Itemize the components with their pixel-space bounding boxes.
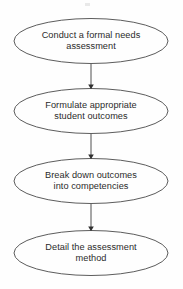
scan-artifact-speck — [85, 3, 90, 6]
arrow-node2-to-node3 — [88, 134, 94, 159]
node-label-line: Conduct a formal needs — [24, 30, 158, 41]
node-label-formulate-student-outcomes: Formulate appropriate student outcomes — [24, 100, 158, 123]
arrow-node1-to-node2 — [88, 64, 94, 89]
node-label-break-down-competencies: Break down outcomes into competencies — [24, 170, 158, 193]
node-label-conduct-needs-assessment: Conduct a formal needs assessment — [24, 30, 158, 53]
node-label-line: method — [24, 253, 158, 264]
arrow-node3-to-node4 — [88, 204, 94, 231]
node-label-line: into competencies — [24, 181, 158, 192]
node-label-line: student outcomes — [24, 111, 158, 122]
node-label-line: Break down outcomes — [24, 170, 158, 181]
flowchart-diagram: Conduct a formal needs assessment Formul… — [0, 0, 183, 289]
node-label-line: assessment — [24, 41, 158, 52]
node-label-line: Formulate appropriate — [24, 100, 158, 111]
node-label-detail-assessment-method: Detail the assessment method — [24, 242, 158, 265]
node-label-line: Detail the assessment — [24, 242, 158, 253]
